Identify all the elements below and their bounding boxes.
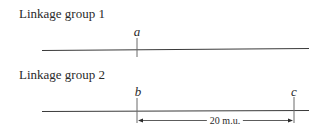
distance-label: 20 m.u.: [207, 116, 243, 126]
locus-label-c: c: [291, 85, 297, 98]
locus-label-a: a: [134, 25, 141, 38]
chromosome-line-group-1: [42, 49, 309, 51]
chromosome-line-group-2: [42, 111, 309, 112]
arrowhead-right-icon: [288, 119, 293, 123]
linkage-group-1-label: Linkage group 1: [19, 7, 105, 20]
locus-label-b: b: [135, 85, 142, 98]
linkage-group-2-label: Linkage group 2: [19, 68, 105, 81]
arrowhead-left-icon: [138, 119, 143, 123]
